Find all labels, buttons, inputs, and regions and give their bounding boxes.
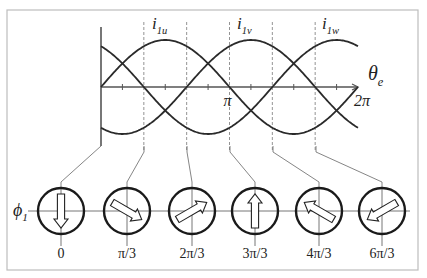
- phasor-angle-label: 0: [58, 246, 65, 261]
- connector-line: [187, 146, 192, 188]
- connector-line: [273, 146, 319, 188]
- current-label-1w: i1w: [322, 14, 339, 36]
- x-tick-label: 2π: [354, 92, 371, 109]
- three-phase-flux-diagram: i1ui1vi1wπ2πθe ϕ10π/32π/33π/34π/36π/3: [0, 0, 427, 278]
- flux-phasor: 2π/3: [169, 188, 215, 261]
- flux-phasor: 4π/3: [296, 188, 342, 261]
- connector-line: [61, 146, 101, 188]
- flux-phasor: π/3: [104, 188, 150, 261]
- flux-phasor: 6π/3: [359, 188, 405, 261]
- flux-phasor: 3π/3: [232, 188, 278, 261]
- x-tick-label: π: [224, 92, 233, 109]
- connector-line: [230, 146, 255, 188]
- phasor-angle-label: 6π/3: [370, 246, 395, 261]
- connector-line: [127, 146, 144, 188]
- flux-phasor: 0: [38, 188, 84, 261]
- connector-line: [316, 146, 382, 188]
- phasor-angle-label: 3π/3: [243, 246, 268, 261]
- current-label-1u: i1u: [152, 14, 167, 36]
- phasor-angle-label: 2π/3: [180, 246, 205, 261]
- current-waveform-plot: i1ui1vi1wπ2πθe: [101, 14, 384, 152]
- phasor-angle-label: 4π/3: [307, 246, 332, 261]
- x-axis-label: θe: [368, 62, 384, 89]
- phasor-angle-label: π/3: [118, 246, 136, 261]
- flux-phasor-row: ϕ10π/32π/33π/34π/36π/3: [13, 188, 410, 261]
- current-label-1v: i1v: [237, 14, 252, 36]
- figure-frame: [7, 10, 418, 270]
- connector-lines: [61, 146, 382, 188]
- diagram-canvas: i1ui1vi1wπ2πθe ϕ10π/32π/33π/34π/36π/3: [0, 0, 427, 278]
- flux-axis-label: ϕ1: [13, 200, 28, 223]
